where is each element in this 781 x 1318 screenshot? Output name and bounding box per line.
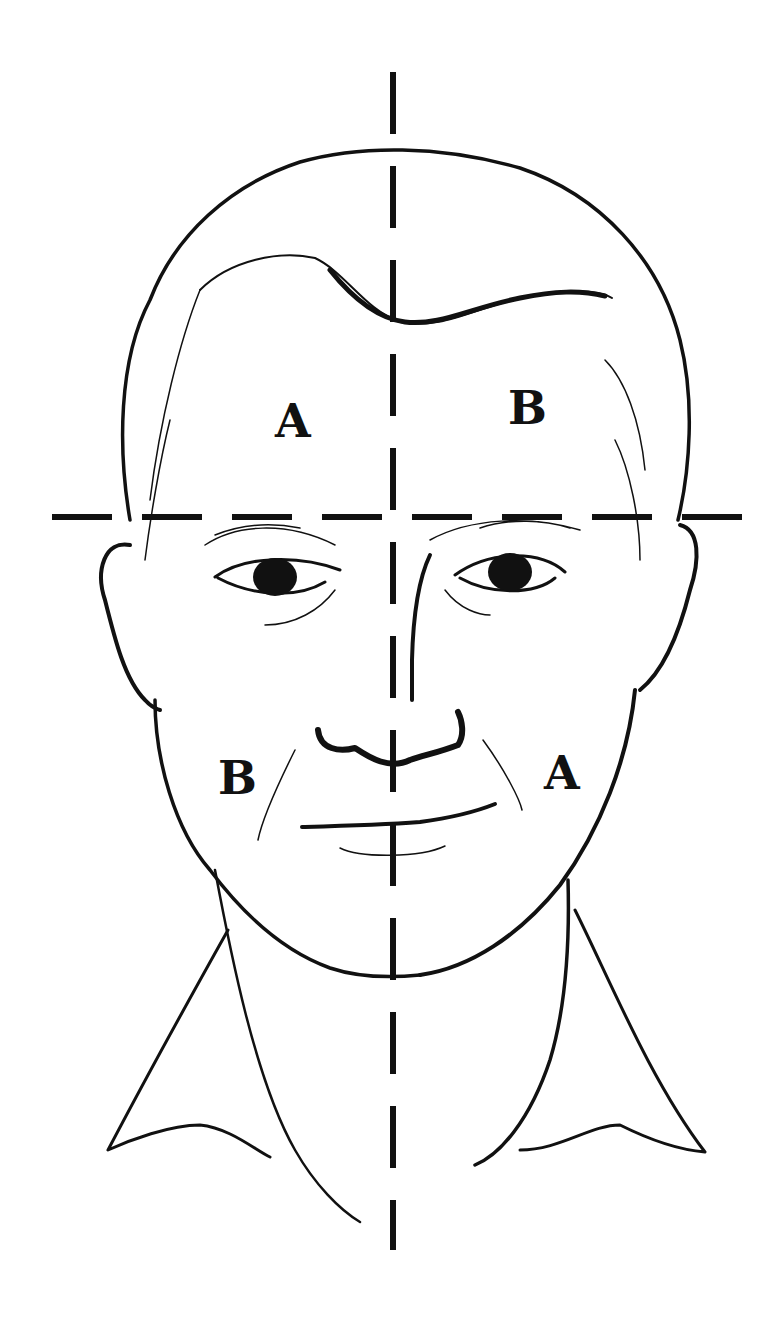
face-drawing — [0, 0, 781, 1318]
head-outline — [123, 150, 690, 520]
collar-left — [108, 930, 270, 1157]
hairline — [200, 255, 612, 323]
mouth — [302, 804, 495, 827]
left-smile-line — [258, 750, 295, 840]
neck-left — [215, 870, 360, 1222]
left-eyebrow — [205, 525, 335, 545]
right-pupil — [488, 553, 532, 591]
right-ear — [640, 525, 697, 690]
left-pupil — [253, 558, 297, 596]
face-outline-right — [420, 690, 635, 975]
label-upper-left: A — [275, 398, 311, 444]
right-smile-line — [483, 740, 522, 810]
face-outline-left — [155, 700, 420, 977]
right-eye-bag — [445, 590, 490, 615]
face-symmetry-diagram: A B B A — [0, 0, 781, 1318]
right-eyebrow — [430, 521, 580, 540]
collar-right — [520, 910, 705, 1152]
label-lower-right: A — [544, 750, 580, 796]
label-upper-right: B — [508, 385, 547, 431]
nose-bridge — [412, 555, 430, 700]
right-temple-hair — [605, 360, 645, 560]
label-lower-left: B — [218, 755, 257, 801]
left-ear — [101, 544, 160, 710]
